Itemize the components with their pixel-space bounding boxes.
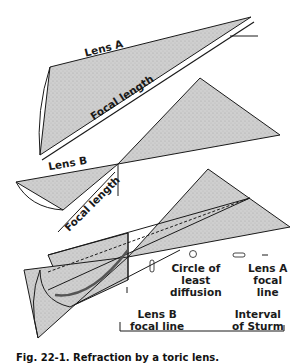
circle-of-least-diffusion-label: Circle of least diffusion: [170, 262, 222, 298]
ellipse-horizontal-icon: [233, 253, 245, 257]
circle-least-diffusion-icon: [190, 251, 197, 258]
ellipse-vertical-icon: [150, 260, 154, 272]
figure-caption: Fig. 22-1. Refraction by a toric lens.: [16, 352, 219, 363]
lens-b-focal-line-label: Lens B focal line: [130, 308, 184, 332]
interval-of-sturm-label: Interval of Sturm: [232, 308, 284, 332]
lens-a-focal-line-label: Lens A focal line: [248, 262, 287, 298]
